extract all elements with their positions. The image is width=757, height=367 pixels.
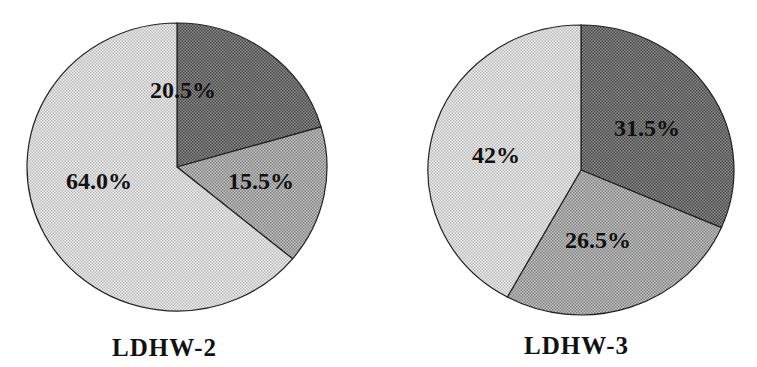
chart-title: LDHW-3: [524, 332, 629, 359]
slice-label: 31.5%: [614, 115, 680, 141]
chart-title: LDHW-2: [112, 334, 217, 361]
slice-label: 15.5%: [228, 168, 294, 194]
pie-charts: 20.5% 15.5% 64.0% LDHW-2 31.5% 26.5% 42%…: [0, 0, 757, 367]
slice-label: 26.5%: [565, 227, 631, 253]
slice-label: 20.5%: [150, 77, 216, 103]
slice-label: 64.0%: [66, 168, 132, 194]
pie-chart-ldhw-2: [27, 23, 327, 311]
slice-label: 42%: [472, 142, 520, 168]
pie-chart-ldhw-3: [428, 25, 734, 315]
